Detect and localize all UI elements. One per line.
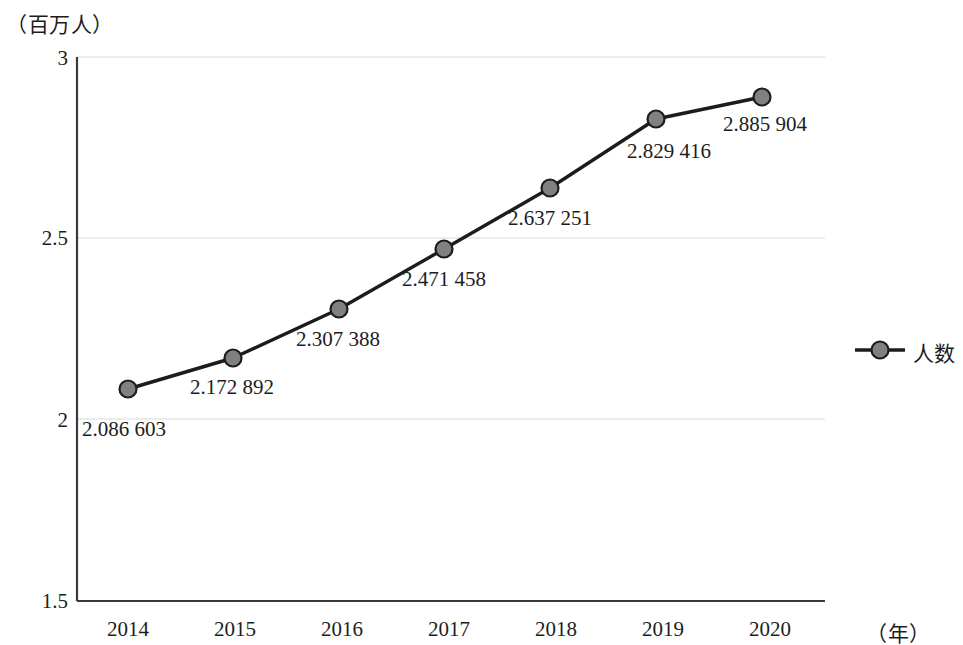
data-label-2015: 2.172 892: [190, 375, 274, 400]
data-point-2019: [648, 111, 665, 128]
data-label-2017: 2.471 458: [402, 267, 486, 292]
data-point-2014: [120, 381, 137, 398]
data-label-2018: 2.637 251: [508, 206, 592, 231]
legend-label-renshu: 人数: [913, 337, 955, 367]
data-point-2020: [754, 89, 771, 106]
data-label-2020: 2.885 904: [723, 112, 807, 137]
data-point-2016: [331, 301, 348, 318]
line-chart: （百万人） （年） 3 2.5 2 1.5 2014 2015 2016 201…: [0, 0, 963, 645]
legend-marker-symbol: [872, 342, 889, 359]
data-point-2018: [542, 180, 559, 197]
data-point-2017: [436, 241, 453, 258]
data-point-2015: [225, 350, 242, 367]
plot-area: [0, 0, 963, 645]
data-label-2016: 2.307 388: [296, 327, 380, 352]
data-label-2014: 2.086 603: [82, 417, 166, 442]
data-label-2019: 2.829 416: [627, 139, 711, 164]
